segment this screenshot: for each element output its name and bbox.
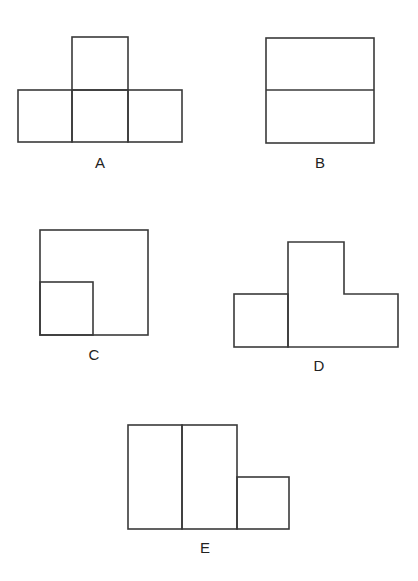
figure-d bbox=[234, 242, 398, 347]
figure-d-left-square bbox=[234, 294, 288, 347]
figure-a-label: A bbox=[95, 154, 105, 171]
figure-b bbox=[266, 38, 374, 143]
figure-c-label: C bbox=[89, 346, 100, 363]
figure-e-small-square bbox=[237, 477, 289, 529]
figure-a-right-square bbox=[128, 90, 182, 142]
figure-c-inner-square bbox=[40, 282, 93, 335]
figure-e-left-rect bbox=[128, 425, 182, 529]
figures-canvas bbox=[0, 0, 418, 581]
figure-e bbox=[128, 425, 289, 529]
figure-e-label: E bbox=[200, 539, 210, 556]
figure-c bbox=[40, 230, 148, 335]
figure-a bbox=[18, 37, 182, 142]
figure-a-left-square bbox=[18, 90, 72, 142]
figure-a-top-square bbox=[72, 37, 128, 90]
figure-e-middle-rect bbox=[182, 425, 237, 529]
figure-a-middle-square bbox=[72, 90, 128, 142]
figure-d-l-shape bbox=[288, 242, 398, 347]
figure-d-label: D bbox=[314, 357, 325, 374]
figure-b-label: B bbox=[315, 154, 325, 171]
